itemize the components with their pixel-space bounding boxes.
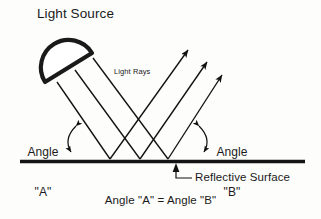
angle-a-label-line1: Angle bbox=[19, 146, 67, 159]
incident-rays-group bbox=[57, 58, 168, 159]
reflective-surface-leader-icon bbox=[173, 163, 192, 178]
angle-b-label-line1: Angle bbox=[208, 146, 256, 159]
lamp-half-dome-icon bbox=[41, 40, 92, 82]
light-rays-label: Light Rays bbox=[114, 68, 150, 76]
reflection-diagram: Light Source Light Rays Angle "A" Angle … bbox=[0, 0, 321, 219]
reflected-ray-2 bbox=[140, 62, 207, 159]
equation-caption: Angle "A" = Angle "B" bbox=[0, 194, 321, 207]
angle-b-arc-icon bbox=[199, 126, 207, 152]
angle-a-arc-icon bbox=[68, 126, 76, 152]
incident-ray-2 bbox=[75, 70, 140, 159]
reflective-surface-label: Reflective Surface bbox=[195, 171, 290, 184]
page-title: Light Source bbox=[37, 6, 114, 21]
